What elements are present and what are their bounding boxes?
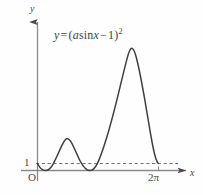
origin-label: O: [28, 172, 36, 183]
y-tick-label-1: 1: [24, 157, 30, 168]
equation-equals: =: [60, 28, 69, 42]
x-axis-label: x: [190, 168, 194, 178]
function-graph-figure: y x O 1 2π y=(asinx−1)2: [0, 0, 203, 195]
function-curve: [38, 48, 159, 170]
y-axis-label: y: [30, 4, 34, 14]
equation-function: sin: [79, 28, 94, 42]
x-tick-label-2pi: 2π: [148, 172, 159, 183]
equation-lhs: y: [54, 28, 60, 42]
equation-annotation: y=(asinx−1)2: [54, 28, 123, 41]
equation-minus: −: [99, 28, 108, 42]
equation-exponent: 2: [118, 27, 122, 36]
